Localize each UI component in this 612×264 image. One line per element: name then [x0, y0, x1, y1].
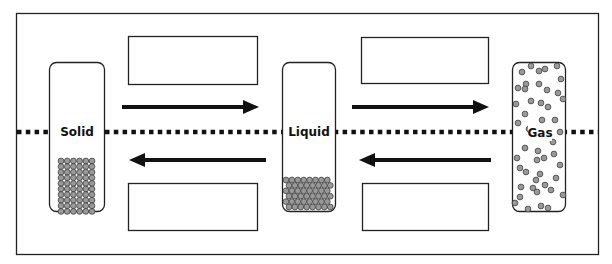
liquid-container: Liquid	[283, 63, 336, 212]
particle	[533, 177, 539, 183]
particle	[64, 175, 70, 181]
particle	[310, 183, 316, 189]
particle	[542, 182, 548, 188]
particle	[313, 188, 319, 194]
particle	[286, 193, 292, 199]
particle	[558, 76, 564, 82]
particle	[289, 177, 295, 183]
particle	[286, 204, 292, 210]
particle	[545, 104, 551, 110]
particle	[517, 165, 523, 171]
particle	[304, 204, 310, 210]
particle	[557, 129, 563, 135]
particle	[283, 177, 289, 183]
particle	[89, 158, 95, 164]
particle	[83, 175, 89, 181]
answer-box-bottom-right[interactable]	[363, 184, 489, 231]
particle	[289, 199, 295, 205]
particle	[523, 169, 529, 175]
particle	[542, 66, 548, 72]
particle	[71, 197, 77, 203]
particle	[319, 188, 325, 194]
particle	[77, 209, 83, 215]
answer-box-top-right[interactable]	[362, 38, 489, 84]
particle	[551, 151, 557, 157]
particle	[71, 186, 77, 192]
particle	[58, 197, 64, 203]
particle	[64, 209, 70, 215]
particle	[83, 203, 89, 209]
particle	[58, 175, 64, 181]
particle	[324, 177, 330, 183]
arrow-liquid-to-solid	[129, 153, 266, 167]
particle	[71, 192, 77, 198]
particle	[77, 164, 83, 170]
particle	[58, 164, 64, 170]
particle	[64, 192, 70, 198]
particle	[64, 169, 70, 175]
particle	[64, 186, 70, 192]
particle	[83, 181, 89, 187]
particle	[58, 192, 64, 198]
particle	[64, 203, 70, 209]
particle	[327, 193, 333, 199]
particle	[536, 81, 542, 87]
particle	[538, 100, 544, 106]
particle	[327, 204, 333, 210]
particle	[535, 148, 541, 154]
particle	[513, 101, 519, 107]
particle	[58, 181, 64, 187]
particle	[295, 188, 301, 194]
particle	[525, 206, 531, 212]
particle	[322, 183, 328, 189]
particle	[310, 204, 316, 210]
particle	[544, 87, 550, 93]
particle	[58, 169, 64, 175]
particle	[64, 158, 70, 164]
particle	[545, 205, 551, 211]
particle	[522, 111, 528, 117]
particle	[310, 193, 316, 199]
answer-box-top-left[interactable]	[129, 37, 258, 85]
particle	[301, 199, 307, 205]
particle	[552, 117, 558, 123]
particle	[522, 86, 528, 92]
particle	[77, 203, 83, 209]
particle	[77, 186, 83, 192]
answer-box-bottom-left[interactable]	[129, 184, 258, 231]
particle	[64, 164, 70, 170]
particle	[58, 209, 64, 215]
arrow-liquid-to-gas	[352, 100, 489, 114]
particle	[537, 171, 543, 177]
particle	[517, 194, 523, 200]
particle	[283, 188, 289, 194]
particle	[83, 209, 89, 215]
particle	[307, 177, 313, 183]
particle	[553, 175, 559, 181]
liquid-label: Liquid	[288, 125, 330, 139]
particle	[89, 197, 95, 203]
particle	[538, 203, 544, 209]
particle	[71, 181, 77, 187]
particle	[83, 164, 89, 170]
particle	[327, 183, 333, 189]
particle	[298, 183, 304, 189]
particle	[77, 197, 83, 203]
particle	[71, 169, 77, 175]
arrow-solid-to-liquid	[122, 100, 259, 114]
particle	[536, 68, 542, 74]
particle	[58, 203, 64, 209]
particle	[286, 183, 292, 189]
particle	[557, 162, 563, 168]
particle	[77, 175, 83, 181]
particle	[292, 193, 298, 199]
particle	[83, 186, 89, 192]
particle	[83, 158, 89, 164]
particle	[512, 200, 518, 206]
particle	[322, 204, 328, 210]
particle	[514, 155, 520, 161]
particle	[322, 193, 328, 199]
particle	[324, 188, 330, 194]
particle	[283, 199, 289, 205]
particle	[316, 204, 322, 210]
